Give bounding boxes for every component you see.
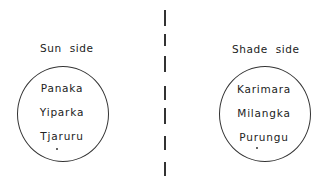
sun-dot <box>56 148 58 150</box>
shade-name-3: Purungu <box>224 131 304 143</box>
shade-side-title: Shade side <box>232 43 300 55</box>
divider-dash <box>164 10 166 26</box>
divider-dash <box>164 162 166 176</box>
divider-dash <box>164 108 166 124</box>
divider-dash <box>164 56 166 72</box>
divider-dash <box>164 34 166 46</box>
shade-name-1: Karimara <box>224 83 304 95</box>
shade-name-2: Milangka <box>224 107 304 119</box>
sun-name-1: Panaka <box>22 82 102 94</box>
divider-dash <box>164 136 166 150</box>
sun-name-3: Tjaruru <box>22 130 102 142</box>
sun-name-2: Yiparka <box>22 106 102 118</box>
divider-dash <box>164 86 166 100</box>
shade-dot <box>256 147 258 149</box>
sun-side-title: Sun side <box>40 42 94 54</box>
